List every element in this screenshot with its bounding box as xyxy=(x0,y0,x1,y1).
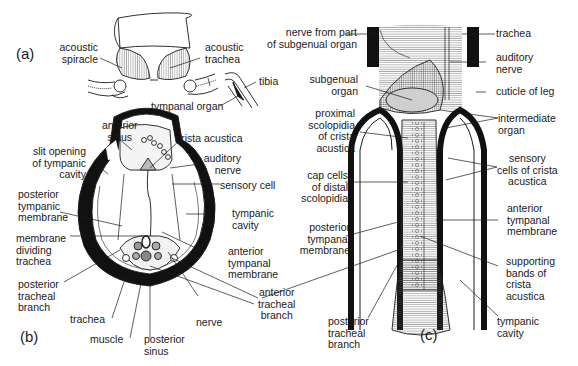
panel-label-a: (a) xyxy=(16,45,34,62)
label-b-posterior-tracheal-branch: posterior tracheal branch xyxy=(18,279,59,314)
label-anterior-sinus: anterior sinus xyxy=(102,120,138,143)
label-c-anterior-tympanal-membrane: anterior tympanal membrane xyxy=(507,203,557,238)
label-membrane-dividing-trachea: membrane dividing trachea xyxy=(16,233,66,268)
label-supporting-bands: supporting bands of crista acustica xyxy=(506,256,555,302)
label-c-trachea: trachea xyxy=(496,28,531,40)
label-c-posterior-tympanal-membrane: posterior tympanal membrane xyxy=(300,222,350,257)
figure: (a) (b) (c) acoustic spiracle acoustic t… xyxy=(0,0,578,366)
label-b-auditory-nerve: auditory nerve xyxy=(204,153,241,176)
label-tympanal-organ: tympanal organ xyxy=(151,101,223,113)
label-sensory-cells-crista: sensory cells of crista acustica xyxy=(497,153,558,188)
label-proximal-scolopidia: proximal scolopidia of crista acustica xyxy=(308,108,355,154)
label-cap-cells: cap cells of distal scolopidia xyxy=(301,170,348,205)
panel-c-drawing xyxy=(351,25,484,336)
panel-label-c: (c) xyxy=(420,326,438,343)
label-acoustic-trachea: acoustic trachea xyxy=(205,42,244,65)
label-cuticle-of-leg: cuticle of leg xyxy=(496,86,554,98)
label-subgenual-organ: subgenual organ xyxy=(310,74,358,97)
label-sensory-cell: sensory cell xyxy=(220,180,275,192)
label-nerve-from-subgenual: nerve from part of subgenual organ xyxy=(267,27,357,50)
label-slit-opening: slit opening of tympanic cavity xyxy=(32,146,86,181)
label-b-tympanic-cavity: tympanic cavity xyxy=(232,208,274,231)
label-nerve: nerve xyxy=(196,317,222,329)
panel-label-b: (b) xyxy=(20,328,38,345)
label-muscle: muscle xyxy=(90,334,123,346)
label-c-posterior-tracheal-branch: posterior tracheal branch xyxy=(328,316,369,351)
label-b-trachea: trachea xyxy=(70,314,105,326)
label-intermediate-organ: intermediate organ xyxy=(498,113,556,136)
label-posterior-sinus: posterior sinus xyxy=(144,334,185,357)
label-b-anterior-tympanal-membrane: anterior tympanal membrane xyxy=(228,246,278,281)
label-acoustic-spiracle: acoustic spiracle xyxy=(59,42,98,65)
label-anterior-tracheal-branch: anterior tracheal branch xyxy=(258,287,295,322)
label-tibia: tibia xyxy=(259,76,278,88)
label-c-auditory-nerve: auditory nerve xyxy=(496,52,533,75)
label-c-tympanic-cavity: tympanic cavity xyxy=(497,316,539,339)
label-posterior-tympanic-membrane: posterior tympanic membrane xyxy=(18,189,68,224)
label-crista-acustica: crista acustica xyxy=(176,133,243,145)
